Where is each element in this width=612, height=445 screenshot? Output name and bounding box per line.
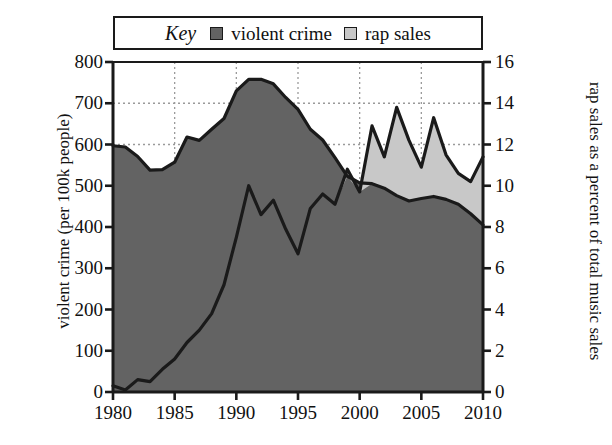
y-axis-left-tick-label: 500 [47, 176, 103, 195]
y-axis-left-tick-label: 600 [47, 135, 103, 154]
y-axis-right-tick-label: 2 [495, 341, 551, 360]
legend-label-rap-sales: rap sales [365, 24, 431, 43]
x-axis-tick-label: 2000 [325, 403, 395, 422]
y-axis-left-tick-label: 800 [47, 52, 103, 71]
x-axis-tick-label: 1980 [78, 403, 148, 422]
y-axis-right-tick-label: 6 [495, 258, 551, 277]
legend-key-label: Key [165, 23, 198, 43]
y-axis-right-tick-label: 16 [495, 52, 551, 71]
x-axis-tick-label: 1995 [263, 403, 333, 422]
legend-swatch-violent-crime [210, 27, 223, 40]
y-axis-left-tick-label: 100 [47, 341, 103, 360]
y-axis-right-tick-label: 12 [495, 135, 551, 154]
x-axis-tick-label: 2005 [386, 403, 456, 422]
y-axis-left-tick-label: 0 [47, 382, 103, 401]
y-axis-left-tick-label: 200 [47, 300, 103, 319]
x-axis-tick-label: 1985 [140, 403, 210, 422]
y-axis-right-tick-label: 4 [495, 300, 551, 319]
y-axis-right-title: rap sales as a percent of total music sa… [586, 71, 604, 371]
legend-entry-rap-sales: rap sales [344, 24, 431, 43]
y-axis-right-tick-label: 10 [495, 176, 551, 195]
y-axis-left-tick-label: 400 [47, 217, 103, 236]
violent-crime-rap-sales-chart: Key violent crime rap sales violent crim… [0, 0, 612, 445]
y-axis-right-tick-label: 0 [495, 382, 551, 401]
y-axis-left-tick-label: 300 [47, 258, 103, 277]
legend-entry-violent-crime: violent crime [210, 24, 332, 43]
y-axis-right-tick-label: 14 [495, 93, 551, 112]
legend-swatch-rap-sales [344, 27, 357, 40]
y-axis-right-tick-label: 8 [495, 217, 551, 236]
legend-label-violent-crime: violent crime [231, 24, 332, 43]
x-axis-tick-label: 2010 [448, 403, 518, 422]
chart-legend: Key violent crime rap sales [113, 16, 483, 50]
x-axis-tick-label: 1990 [201, 403, 271, 422]
y-axis-left-tick-label: 700 [47, 93, 103, 112]
